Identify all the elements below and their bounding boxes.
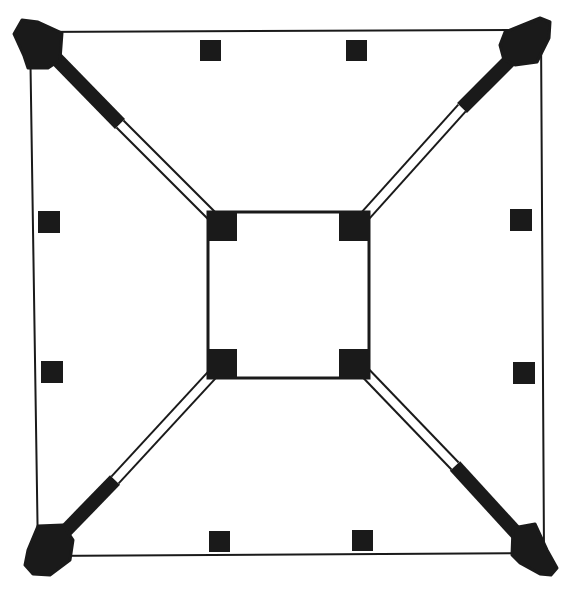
inner-corner-block <box>339 211 369 241</box>
corner-anchor-top-left <box>14 20 62 68</box>
marker-square-left <box>38 211 60 233</box>
marker-square-bottom <box>352 530 373 551</box>
marker-square-top <box>200 40 221 61</box>
marker-square-right <box>510 209 532 231</box>
inner-corner-block <box>207 211 237 241</box>
diagonal-struts <box>42 42 530 548</box>
corner-anchor-bottom-right <box>512 524 557 575</box>
frame-diagram <box>0 0 569 593</box>
marker-square-bottom <box>209 531 230 552</box>
strut-top-left <box>42 44 222 226</box>
strut-bottom-left <box>50 364 222 547</box>
corner-anchor-top-right <box>500 18 550 65</box>
strut-hollow-fill <box>115 364 222 480</box>
strut-top-right <box>356 42 528 226</box>
marker-square-top <box>346 40 367 61</box>
marker-square-left <box>41 361 63 383</box>
strut-hollow-fill <box>356 108 462 226</box>
inner-corner-block <box>207 349 237 379</box>
strut-bottom-right <box>355 362 530 548</box>
inner-frame <box>207 211 369 379</box>
inner-corner-block <box>339 349 369 379</box>
marker-square-right <box>513 362 535 384</box>
corner-anchor-bottom-left <box>25 525 73 575</box>
